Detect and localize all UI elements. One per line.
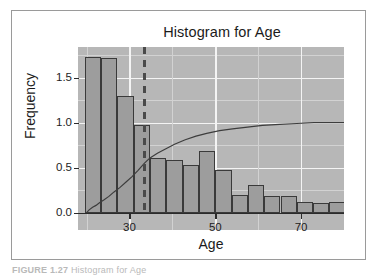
x-axis-label: Age [78,236,344,252]
y-axis-tick-mark [74,123,79,124]
x-axis-tick-label: 30 [123,221,136,233]
y-axis: 0.00.51.01.5 [40,0,72,276]
y-axis-tick-label: 1.0 [56,116,72,128]
mean-vline-annotation [143,47,146,215]
figure-caption-number: FIGURE 1.27 [12,265,68,275]
y-axis-tick-mark [74,78,79,79]
x-axis-tick-mark [129,214,130,219]
y-axis-tick-label: 0.0 [56,206,72,218]
y-axis-tick-label: 0.5 [56,161,72,173]
x-axis-tick-mark [301,214,302,219]
y-axis-tick-label: 1.5 [56,71,72,83]
y-axis-label: Frequency [22,46,38,166]
y-axis-tick-mark [74,168,79,169]
figure-page: Histogram for Age 0.00.51.01.5 305070 Fr… [0,0,379,276]
theoretical-cdf-curve [78,47,344,230]
x-axis-line [78,213,344,215]
x-axis-tick-label: 50 [209,221,222,233]
chart-title: Histogram for Age [78,24,366,40]
y-axis-tick-mark [74,213,79,214]
x-axis-tick-label: 70 [295,221,308,233]
x-axis-tick-mark [215,214,216,219]
plot-panel [78,47,344,230]
figure-caption-text: Histogram for Age [71,265,146,275]
figure-caption: FIGURE 1.27 Histogram for Age [12,265,146,275]
